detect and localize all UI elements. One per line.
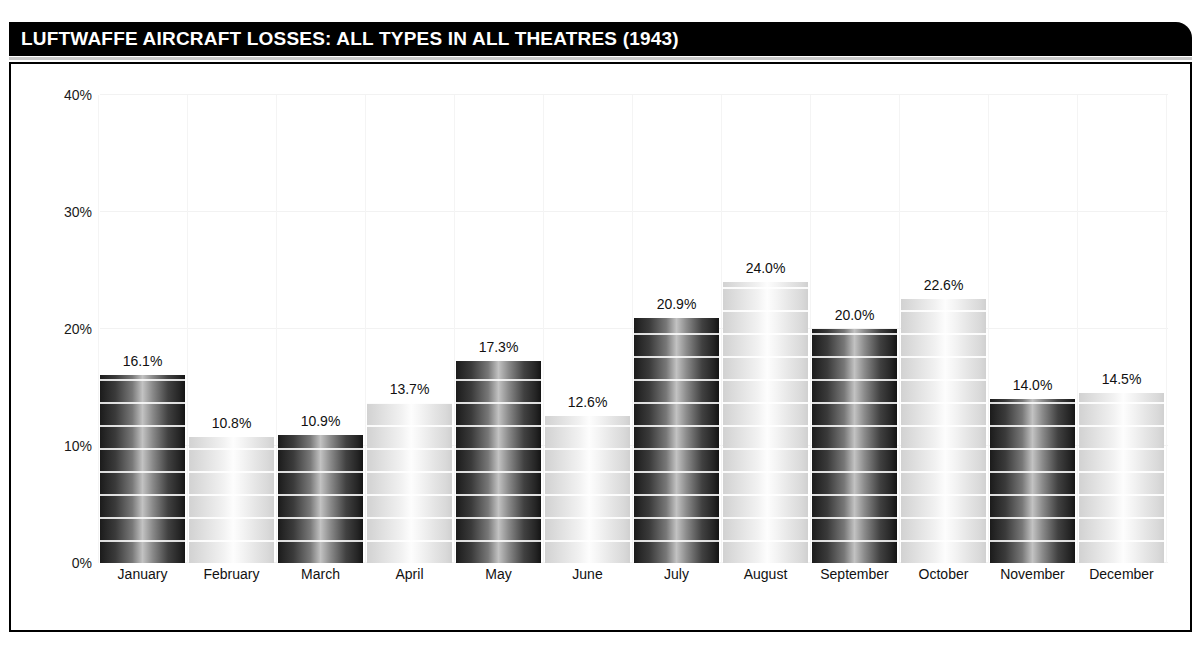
title-underline-rule (9, 57, 1192, 60)
x-axis: JanuaryFebruaryMarchAprilMayJuneJulyAugu… (100, 566, 1168, 590)
bar-value-label: 13.7% (367, 381, 452, 397)
x-axis-category-label: May (448, 566, 549, 582)
bar-value-label: 17.3% (456, 339, 541, 355)
bar-stripe-overlay (812, 329, 897, 563)
gridline-vertical (98, 95, 99, 563)
gridline-vertical (810, 95, 811, 563)
y-axis-tick-label: 30% (64, 204, 92, 220)
bar-stripe-overlay (545, 416, 630, 563)
bar-group: 14.5% (1079, 95, 1164, 563)
bar-stripe-overlay (189, 437, 274, 563)
bar[interactable] (545, 416, 630, 563)
gridline-vertical (988, 95, 989, 563)
bar-stripe-overlay (723, 282, 808, 563)
y-axis: 0%10%20%30%40% (30, 95, 92, 563)
bar-value-label: 20.9% (634, 296, 719, 312)
bar-value-label: 22.6% (901, 277, 986, 293)
bar[interactable] (634, 318, 719, 563)
bar-value-label: 10.8% (189, 415, 274, 431)
x-axis-category-label: October (893, 566, 994, 582)
bar-group: 17.3% (456, 95, 541, 563)
gridline-vertical (1077, 95, 1078, 563)
x-axis-category-label: August (715, 566, 816, 582)
bar-stripe-overlay (100, 375, 185, 563)
bar-group: 24.0% (723, 95, 808, 563)
bar-stripe-overlay (1079, 393, 1164, 563)
x-axis-category-label: June (537, 566, 638, 582)
bar-stripe-overlay (456, 361, 541, 563)
x-axis-category-label: April (359, 566, 460, 582)
gridline-vertical (276, 95, 277, 563)
gridline-vertical (365, 95, 366, 563)
chart-title-bar: LUFTWAFFE AIRCRAFT LOSSES: ALL TYPES IN … (9, 22, 1192, 56)
gridline-vertical (1166, 95, 1167, 563)
bar[interactable] (1079, 393, 1164, 563)
y-axis-tick-label: 0% (72, 555, 92, 571)
bar[interactable] (456, 361, 541, 563)
gridline-vertical (721, 95, 722, 563)
gridline-vertical (632, 95, 633, 563)
bar-stripe-overlay (901, 299, 986, 563)
bar-group: 20.0% (812, 95, 897, 563)
bar[interactable] (278, 435, 363, 563)
bar-group: 12.6% (545, 95, 630, 563)
bar[interactable] (901, 299, 986, 563)
gridline-vertical (543, 95, 544, 563)
bar-group: 22.6% (901, 95, 986, 563)
bar-value-label: 20.0% (812, 307, 897, 323)
bar-value-label: 12.6% (545, 394, 630, 410)
x-axis-category-label: March (270, 566, 371, 582)
bar[interactable] (367, 403, 452, 563)
bar-value-label: 14.0% (990, 377, 1075, 393)
bar-stripe-overlay (278, 435, 363, 563)
x-axis-category-label: September (804, 566, 905, 582)
bar-stripe-overlay (990, 399, 1075, 563)
gridline-vertical (187, 95, 188, 563)
x-axis-category-label: January (92, 566, 193, 582)
y-axis-tick-label: 40% (64, 87, 92, 103)
bar-group: 20.9% (634, 95, 719, 563)
y-axis-tick-label: 20% (64, 321, 92, 337)
plot-area: 16.1%10.8%10.9%13.7%17.3%12.6%20.9%24.0%… (100, 95, 1168, 563)
bar-group: 10.9% (278, 95, 363, 563)
gridline-vertical (899, 95, 900, 563)
bar-value-label: 16.1% (100, 353, 185, 369)
y-axis-tick-label: 10% (64, 438, 92, 454)
bar-group: 14.0% (990, 95, 1075, 563)
x-axis-category-label: November (982, 566, 1083, 582)
bar-stripe-overlay (634, 318, 719, 563)
x-axis-category-label: July (626, 566, 727, 582)
bar-stripe-overlay (367, 403, 452, 563)
gridline-vertical (454, 95, 455, 563)
bar-value-label: 10.9% (278, 413, 363, 429)
chart-page: { "header": { "title": "LUFTWAFFE AIRCRA… (0, 0, 1201, 645)
bar-value-label: 14.5% (1079, 371, 1164, 387)
page-title: LUFTWAFFE AIRCRAFT LOSSES: ALL TYPES IN … (21, 28, 679, 50)
bar-group: 13.7% (367, 95, 452, 563)
bar-value-label: 24.0% (723, 260, 808, 276)
bar[interactable] (189, 437, 274, 563)
bar-group: 16.1% (100, 95, 185, 563)
bar[interactable] (812, 329, 897, 563)
bar[interactable] (723, 282, 808, 563)
x-axis-category-label: February (181, 566, 282, 582)
bar-group: 10.8% (189, 95, 274, 563)
bar[interactable] (990, 399, 1075, 563)
bar[interactable] (100, 375, 185, 563)
x-axis-category-label: December (1071, 566, 1172, 582)
